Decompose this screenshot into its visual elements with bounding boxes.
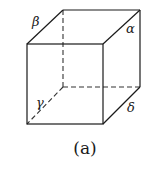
label-alpha: α xyxy=(126,21,135,36)
hidden-edge-depth xyxy=(27,87,63,124)
cube-figure: β α γ δ (a) xyxy=(0,0,157,171)
label-delta: δ xyxy=(127,100,135,115)
hidden-edges xyxy=(27,10,140,124)
cube-diagram: β α γ δ (a) xyxy=(0,0,157,171)
label-beta: β xyxy=(31,14,40,29)
label-gamma: γ xyxy=(36,95,44,110)
figure-caption: (a) xyxy=(73,138,96,158)
